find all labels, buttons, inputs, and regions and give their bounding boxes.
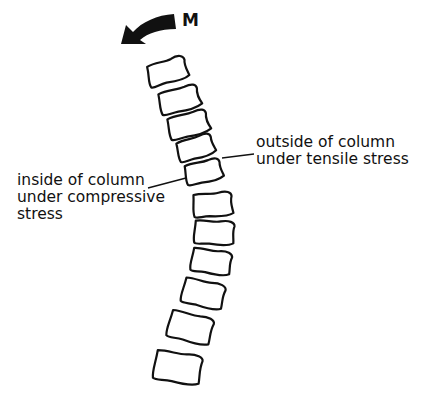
inside-label-line-1: inside of column xyxy=(17,172,165,189)
vertebra-10 xyxy=(165,308,215,347)
vertebra-6 xyxy=(192,191,233,218)
outside-label-line-1: outside of column xyxy=(256,134,409,151)
vertebra-1 xyxy=(145,54,191,88)
inside-label-line-2: under compressive xyxy=(17,189,165,206)
outside-label-line-2: under tensile stress xyxy=(256,151,409,168)
inside-label-line-3: stress xyxy=(17,206,165,223)
moment-arrow-icon xyxy=(121,14,176,44)
vertebra-7 xyxy=(193,219,235,246)
inside-label: inside of column under compressive stres… xyxy=(17,172,165,223)
vertebra-9 xyxy=(180,276,227,312)
moment-label: M xyxy=(182,10,199,30)
outside-leader-line xyxy=(222,154,254,158)
vertebra-11 xyxy=(152,348,204,386)
outside-label: outside of column under tensile stress xyxy=(256,134,409,168)
vertebra-8 xyxy=(189,246,233,277)
